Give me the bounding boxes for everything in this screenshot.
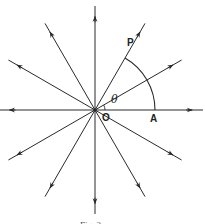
rays-group	[0, 6, 203, 214]
arrowhead-300deg	[137, 183, 140, 188]
arrowhead-210deg	[17, 152, 22, 155]
arrowhead-30deg	[168, 65, 173, 68]
origin-point	[93, 108, 97, 112]
label-p: P	[127, 37, 134, 48]
arrowhead-240deg	[50, 183, 53, 188]
arrowhead-150deg	[17, 65, 22, 68]
arrowhead-330deg	[168, 152, 173, 155]
radial-field-diagram: P θ O A Fig. 2	[0, 0, 205, 224]
angle-marker-arc	[104, 105, 105, 110]
label-o: O	[102, 112, 110, 123]
arrowhead-60deg	[137, 32, 140, 37]
label-a: A	[150, 113, 157, 124]
label-theta: θ	[111, 93, 118, 106]
figure-caption: Fig. 2	[80, 220, 101, 224]
arrowhead-120deg	[50, 32, 53, 37]
